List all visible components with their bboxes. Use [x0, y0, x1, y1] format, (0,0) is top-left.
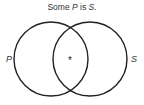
circle-s — [53, 22, 127, 96]
venn-diagram: P S * — [0, 0, 144, 105]
existence-mark: * — [68, 55, 72, 66]
label-s: S — [131, 54, 137, 64]
label-p: P — [6, 54, 12, 64]
circle-p — [14, 22, 88, 96]
